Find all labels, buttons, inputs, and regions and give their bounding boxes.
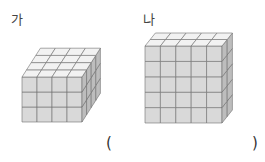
cube-front-face	[207, 61, 222, 76]
cube-front-face	[207, 108, 222, 123]
cube-front-face	[145, 92, 160, 107]
cube-front-face	[37, 92, 52, 107]
cube-front-face	[191, 46, 206, 61]
cube-front-face	[145, 108, 160, 123]
cube-front-face	[160, 108, 175, 123]
cube-front-face	[22, 77, 37, 92]
cube-front-face	[207, 46, 222, 61]
cube-front-face	[52, 77, 67, 92]
cube-front-face	[37, 107, 52, 122]
cube-front-face	[67, 77, 82, 92]
cube-front-face	[37, 77, 52, 92]
answer-blank[interactable]	[118, 134, 248, 152]
cube-front-face	[145, 77, 160, 92]
cube-front-face	[207, 92, 222, 107]
cube-front-face	[67, 107, 82, 122]
cube-front-face	[52, 92, 67, 107]
cube-front-face	[207, 77, 222, 92]
cube-front-face	[176, 92, 191, 107]
answer-open-paren: (	[106, 134, 112, 152]
cube-front-face	[176, 77, 191, 92]
cube-front-face	[160, 61, 175, 76]
answer-close-paren: )	[252, 134, 258, 152]
cube-front-face	[145, 61, 160, 76]
cube-front-face	[176, 108, 191, 123]
cube-front-face	[160, 92, 175, 107]
cube-front-face	[191, 61, 206, 76]
cube-front-face	[160, 77, 175, 92]
cube-front-face	[67, 92, 82, 107]
cube-front-face	[22, 107, 37, 122]
cube-front-face	[176, 61, 191, 76]
cube-front-face	[191, 92, 206, 107]
cube-front-face	[160, 46, 175, 61]
cube-front-face	[191, 77, 206, 92]
cube-front-face	[22, 92, 37, 107]
cube-front-face	[145, 46, 160, 61]
cube-front-face	[191, 108, 206, 123]
cube-front-face	[52, 107, 67, 122]
cube-front-face	[176, 46, 191, 61]
